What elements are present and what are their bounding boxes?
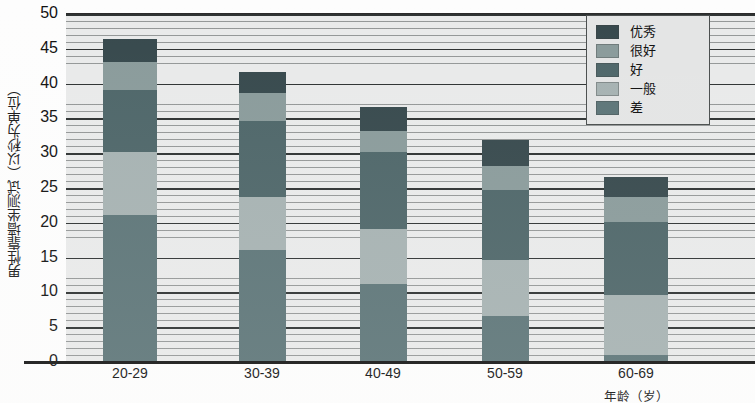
- y-tick-label: 30: [40, 144, 58, 160]
- legend-swatch-icon: [596, 101, 619, 115]
- bar-segment: [482, 260, 529, 316]
- y-tick-label: 25: [40, 179, 58, 195]
- bar-segment: [103, 62, 157, 90]
- bar-segment: [239, 121, 286, 198]
- y-tick-label: 45: [40, 40, 58, 56]
- bar-segment: [103, 90, 157, 153]
- bar-segment: [239, 250, 286, 361]
- y-axis-tick-labels: 50454035302520151050: [26, 0, 62, 403]
- legend-swatch-icon: [596, 25, 619, 39]
- y-axis-title-text: 男性靠墙坐测试（以秒为单位）: [8, 82, 22, 278]
- legend-item-3[interactable]: 一般: [596, 79, 701, 98]
- bar-segment: [239, 93, 286, 121]
- y-tick-label: 5: [49, 318, 58, 334]
- y-tick-label: 20: [40, 214, 58, 230]
- bar-30-39: [239, 13, 286, 361]
- bar-segment: [103, 152, 157, 215]
- x-axis-line: [24, 361, 755, 364]
- chart-legend: 优秀很好好一般差: [586, 15, 710, 125]
- legend-item-2[interactable]: 好: [596, 60, 701, 79]
- y-tick-label: 35: [40, 109, 58, 125]
- bar-segment: [482, 190, 529, 260]
- bar-segment: [239, 197, 286, 249]
- x-tick-label: 20-29: [112, 366, 148, 380]
- bar-segment: [360, 107, 407, 131]
- bar-50-59: [482, 13, 529, 361]
- bar-segment: [482, 316, 529, 361]
- legend-swatch-icon: [596, 82, 619, 96]
- bar-segment: [360, 284, 407, 361]
- chart-root: 男性靠墙坐测试（以秒为单位） 50454035302520151050 20-2…: [0, 0, 755, 403]
- x-tick-label: 60-69: [618, 366, 654, 380]
- y-tick-label: 10: [40, 283, 58, 299]
- legend-swatch-icon: [596, 44, 619, 58]
- legend-item-0[interactable]: 优秀: [596, 22, 701, 41]
- legend-swatch-icon: [596, 63, 619, 77]
- legend-item-label: 差: [630, 101, 643, 114]
- bar-segment: [360, 152, 407, 229]
- legend-item-label: 很好: [630, 44, 656, 57]
- y-tick-label: 15: [40, 249, 58, 265]
- bar-segment: [103, 39, 157, 61]
- y-tick-label: 40: [40, 75, 58, 91]
- legend-item-label: 一般: [630, 82, 656, 95]
- bar-segment: [360, 229, 407, 285]
- bar-segment: [360, 131, 407, 152]
- legend-item-1[interactable]: 很好: [596, 41, 701, 60]
- legend-item-4[interactable]: 差: [596, 98, 701, 117]
- bar-segment: [103, 215, 157, 361]
- bar-segment: [482, 166, 529, 190]
- bar-segment: [482, 140, 529, 166]
- x-axis-title: 年龄（岁）: [604, 386, 669, 403]
- x-tick-label: 50-59: [487, 366, 523, 380]
- x-tick-label: 30-39: [244, 366, 280, 380]
- bar-segment: [604, 177, 668, 198]
- bar-20-29: [103, 13, 157, 361]
- bar-segment: [239, 72, 286, 93]
- legend-item-label: 优秀: [630, 25, 656, 38]
- bar-40-49: [360, 13, 407, 361]
- bar-segment: [604, 295, 668, 356]
- bar-segment: [604, 197, 668, 221]
- y-tick-label: 50: [40, 5, 58, 21]
- x-tick-label: 40-49: [365, 366, 401, 380]
- legend-item-label: 好: [630, 63, 643, 76]
- bar-segment: [604, 222, 668, 295]
